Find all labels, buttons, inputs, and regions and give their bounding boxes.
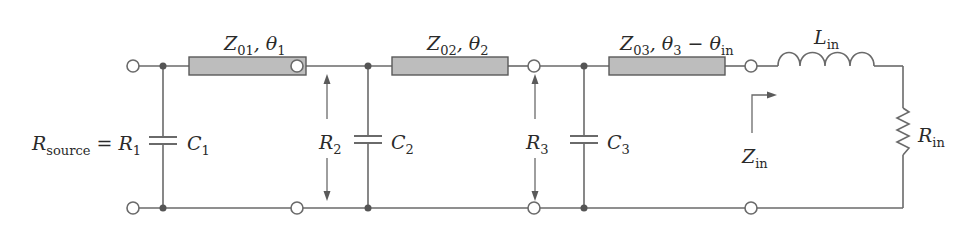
capacitor-c1 — [149, 66, 177, 208]
source-resistance-label: Rsource = R1 — [31, 132, 141, 158]
r2-label: R2 — [318, 131, 342, 157]
zin-label: Zin — [741, 145, 768, 171]
junction-dot — [160, 205, 167, 212]
transmission-line-1-label: Z01, θ1 — [223, 32, 286, 58]
terminal-node2-bottom — [291, 202, 303, 214]
transmission-line-3 — [609, 57, 725, 75]
inductor-label: Lin — [813, 26, 840, 52]
terminal-node2-top — [291, 60, 303, 72]
junction-dot — [365, 205, 372, 212]
junction-dot — [365, 63, 372, 70]
terminal-source-bottom — [127, 202, 139, 214]
transmission-line-1 — [189, 57, 306, 75]
resistor-rin — [897, 66, 909, 208]
terminal-node3-bottom — [528, 202, 540, 214]
junction-dot — [581, 63, 588, 70]
zin-direction-arrow — [752, 92, 777, 134]
capacitor-c1-label: C1 — [187, 132, 210, 158]
capacitor-c3 — [570, 66, 598, 208]
junction-dot — [581, 205, 588, 212]
terminal-node3-top — [528, 60, 540, 72]
capacitor-c2 — [354, 66, 382, 208]
terminal-load-top — [745, 60, 757, 72]
resistor-label: Rin — [917, 124, 945, 150]
transmission-line-3-label: Z03, θ3 − θin — [619, 32, 734, 58]
circuit-diagram: Z01, θ1 Z02, θ2 Z03, θ3 − θin C1 C2 C3 R… — [0, 0, 969, 228]
r3-label: R3 — [525, 131, 549, 157]
inductor-lin — [778, 53, 874, 67]
terminal-load-bottom — [745, 202, 757, 214]
transmission-line-2 — [392, 57, 508, 75]
capacitor-c2-label: C2 — [391, 131, 414, 157]
transmission-line-2-label: Z02, θ2 — [426, 32, 489, 58]
terminal-source-top — [127, 60, 139, 72]
junction-dot — [160, 63, 167, 70]
capacitor-c3-label: C3 — [607, 131, 630, 157]
